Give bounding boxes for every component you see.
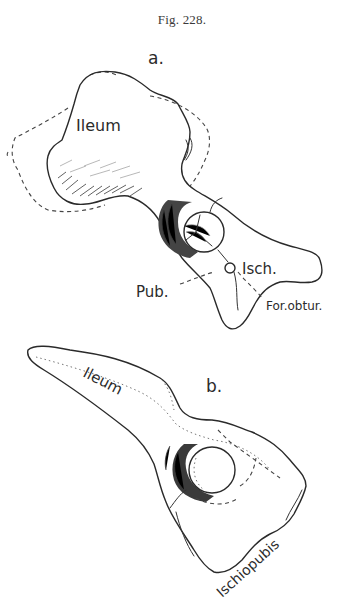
panel-a-label-ileum: Ileum	[76, 116, 121, 135]
panel-a: a.	[7, 48, 322, 329]
panel-a-dashed-contour	[12, 72, 209, 212]
panel-b-label-ischiopubis: Ischiopubis	[213, 536, 282, 600]
anatomical-figure: a.	[0, 0, 364, 609]
panel-a-label-for-obtur: For.obtur.	[266, 299, 322, 313]
panel-a-ileum-shading	[58, 160, 142, 196]
panel-b-acetabulum-ring	[189, 447, 235, 493]
panel-b: b. Ileum Ischiopubis	[28, 346, 306, 600]
panel-b-edge-line	[176, 512, 194, 556]
panel-a-acetabulum	[158, 198, 224, 258]
panel-a-bone-outline	[47, 71, 322, 329]
panel-a-label-isch: Isch.	[242, 260, 277, 278]
panel-b-label-ileum: Ileum	[80, 364, 126, 399]
panel-b-edge-line-right	[286, 490, 302, 520]
panel-b-label: b.	[206, 376, 222, 396]
panel-a-label: a.	[148, 48, 164, 68]
panel-a-foramen-obturatum	[225, 263, 235, 273]
panel-a-dashed-left-tick	[7, 152, 10, 157]
panel-a-suture-line	[218, 250, 228, 262]
panel-a-label-pub: Pub.	[136, 283, 169, 301]
panel-a-pubis-line	[234, 272, 238, 310]
panel-b-acetabulum	[165, 444, 256, 504]
panel-b-dashed-suture	[218, 430, 280, 478]
